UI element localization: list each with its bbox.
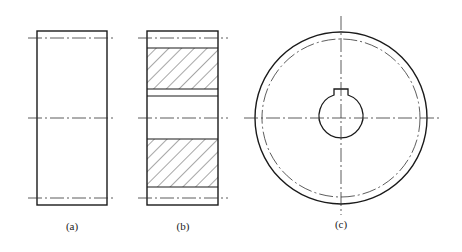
view-b-label: (b) (177, 220, 190, 232)
view-b-section (138, 31, 228, 205)
view-c-label: (c) (335, 218, 347, 230)
view-a-front-outline (28, 31, 116, 205)
hatch-upper (147, 48, 218, 89)
hatch-lower (147, 139, 218, 187)
view-a-centerlines (28, 38, 116, 198)
view-a-label: (a) (66, 220, 78, 232)
view-c-side (244, 16, 440, 215)
view-c-centerlines (244, 16, 440, 215)
gear-technical-drawing (0, 0, 462, 252)
